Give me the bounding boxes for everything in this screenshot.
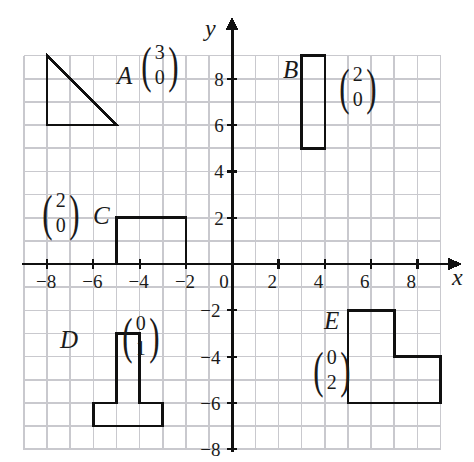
y-tick-label: 6 [214,116,224,135]
vector-left-paren: ( [141,47,151,83]
x-tick-label: 2 [268,272,278,291]
column-vector-d: (01) [119,311,162,361]
vector-component-x: 2 [56,188,66,213]
x-tick-label: 6 [360,272,370,291]
y-tick-label: 2 [214,209,224,228]
x-tick-label: −8 [36,272,56,291]
column-vector-c: (20) [39,188,82,238]
vector-right-paren: ) [340,352,350,388]
y-tick-label: 4 [214,162,224,181]
column-vector-a: (30) [138,40,181,90]
vector-right-paren: ) [366,69,376,105]
vector-left-paren: ( [313,352,323,388]
column-vector-b: (20) [336,62,379,112]
vector-left-paren: ( [339,69,349,105]
vector-component-y: 1 [136,336,146,361]
vector-left-paren: ( [42,195,52,231]
vector-components: 02 [327,345,337,395]
x-axis-label: x [452,265,463,289]
vector-component-x: 0 [327,345,337,370]
x-tick-label: −2 [175,272,195,291]
shape-label-e: E [324,308,339,333]
vector-component-y: 0 [56,213,66,238]
vector-components: 20 [353,62,363,112]
vector-components: 30 [155,40,165,90]
axis-lines [22,17,462,452]
column-vector-e: (02) [310,345,353,395]
vector-right-paren: ) [168,47,178,83]
shape-label-d: D [60,327,78,352]
x-tick-label: −4 [129,272,149,291]
vector-right-paren: ) [69,195,79,231]
vector-left-paren: ( [122,318,132,354]
x-tick-label: 8 [406,272,416,291]
vector-components: 20 [56,188,66,238]
shape-label-c: C [93,203,110,228]
vector-component-y: 2 [327,370,337,395]
shape-label-b: B [283,57,298,82]
coordinate-grid-figure: −8−6−4−2024688642−2−4−6−8 y x ABCDE(30)(… [0,0,474,462]
y-tick-label: 8 [214,70,224,89]
y-axis-label: y [205,16,216,40]
x-tick-label: 4 [314,272,324,291]
vector-component-y: 0 [353,87,363,112]
y-tick-label: −4 [200,348,220,367]
vector-component-x: 3 [155,40,165,65]
x-tick-label: 0 [219,272,229,291]
shape-label-a: A [117,63,132,88]
x-tick-label: −6 [82,272,102,291]
vector-components: 01 [136,311,146,361]
vector-right-paren: ) [149,318,159,354]
vector-component-x: 0 [136,311,146,336]
y-tick-label: −2 [200,301,220,320]
vector-component-y: 0 [155,65,165,90]
shape-a [47,56,116,125]
y-tick-label: −6 [200,394,220,413]
y-tick-label: −8 [200,440,220,459]
vector-component-x: 2 [353,62,363,87]
